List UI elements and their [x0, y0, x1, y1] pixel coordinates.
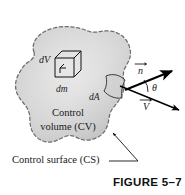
label-n-vector-text: n: [138, 66, 143, 76]
label-n-vector: n: [138, 62, 143, 76]
label-V-vector-text: V: [143, 102, 149, 112]
normal-vector-arrow-icon: [125, 71, 172, 90]
label-V-vector: V: [143, 98, 149, 112]
vector-arrow-overbar-v-icon: [143, 98, 149, 102]
label-dm: dm: [56, 85, 68, 95]
leader-line-icon: [109, 133, 138, 161]
label-dA: dA: [89, 93, 100, 103]
label-theta: θ: [152, 83, 157, 93]
label-control-volume-line1: Control: [52, 107, 84, 118]
label-control-volume: Control volume (CV): [30, 106, 106, 134]
vector-arrow-overbar-n-icon: [138, 62, 143, 66]
label-control-surface: Control surface (CS): [12, 155, 99, 166]
label-control-volume-line2: volume (CV): [40, 121, 96, 132]
figure-5-7: dV dm dA θ n V Control volume (CV) Contr…: [0, 0, 185, 195]
label-dV: dV: [39, 55, 50, 65]
figure-caption: FIGURE 5–7: [113, 176, 182, 188]
